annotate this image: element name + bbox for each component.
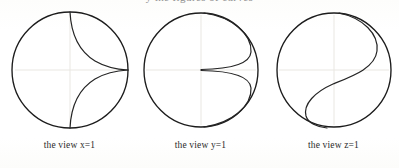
caption-view-z: the view z=1 bbox=[267, 140, 399, 150]
curve-lower-lobe bbox=[201, 71, 251, 128]
curve-upper-lobe bbox=[201, 13, 251, 70]
curve-upper-branch bbox=[70, 12, 128, 70]
figure-view-x bbox=[3, 6, 136, 136]
caption-view-x: the view x=1 bbox=[3, 140, 136, 150]
figure-row bbox=[0, 6, 399, 136]
ghost-axes-icon bbox=[279, 15, 389, 125]
ghost-axes-icon bbox=[15, 14, 126, 126]
figure-view-z bbox=[267, 6, 399, 136]
figure-view-y bbox=[134, 6, 267, 136]
caption-view-y: the view y=1 bbox=[134, 140, 267, 150]
caption-row: the view x=1 the view y=1 the view z=1 bbox=[0, 140, 399, 162]
page-title: y the figures of curves bbox=[0, 0, 399, 3]
curve-lower-branch bbox=[70, 70, 128, 128]
